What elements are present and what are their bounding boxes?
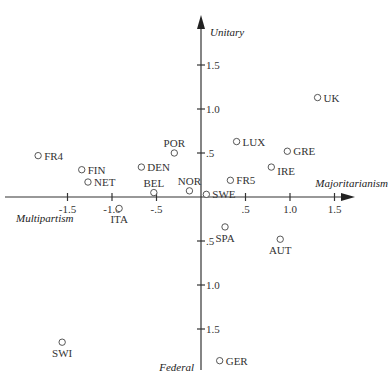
data-point-swe: SWE: [203, 188, 236, 200]
x-axis-arrow-icon: [341, 193, 355, 201]
point-label: POR: [164, 137, 186, 149]
point-label: BEL: [143, 177, 164, 189]
x-axis-label-right: Majoritarianism: [314, 177, 388, 189]
point-marker-icon: [79, 167, 85, 173]
point-marker-icon: [227, 177, 233, 183]
y-tick-label: 1.0: [206, 279, 220, 291]
point-label: IRE: [277, 165, 295, 177]
data-point-fin: FIN: [79, 164, 106, 176]
x-tick-label: 1.0: [283, 203, 297, 215]
data-point-bel: BEL: [143, 177, 164, 196]
point-marker-icon: [171, 150, 177, 156]
point-label: SWE: [212, 188, 236, 200]
point-marker-icon: [186, 188, 192, 194]
scatter-plot: -1.5-1.0-.5.51.01.51.51.0.5.51.01.5 Unit…: [0, 0, 392, 387]
data-point-gre: GRE: [284, 145, 315, 157]
point-marker-icon: [233, 138, 239, 144]
data-point-lux: LUX: [233, 136, 265, 148]
point-marker-icon: [138, 164, 144, 170]
point-label: FR5: [236, 174, 255, 186]
data-point-aut: AUT: [269, 236, 292, 256]
point-label: SPA: [215, 232, 234, 244]
data-point-den: DEN: [138, 161, 170, 173]
data-point-swi: SWI: [52, 339, 73, 359]
point-label: ITA: [110, 213, 128, 225]
data-point-ger: GER: [216, 355, 248, 367]
data-point-fr4: FR4: [35, 150, 64, 162]
data-point-spa: SPA: [215, 224, 234, 244]
point-label: NET: [94, 176, 116, 188]
data-point-nor: NOR: [178, 175, 202, 194]
y-tick-label: .5: [206, 235, 215, 247]
x-axis-label-left: Multipartism: [15, 212, 74, 224]
point-marker-icon: [216, 357, 222, 363]
point-marker-icon: [151, 189, 157, 195]
y-axis-label-bottom: Federal: [158, 361, 194, 373]
y-axis-label-top: Unitary: [210, 26, 244, 38]
point-label: UK: [324, 92, 340, 104]
point-label: LUX: [243, 136, 266, 148]
y-tick-label: 1.5: [206, 59, 220, 71]
x-tick-label: -.5: [151, 203, 163, 215]
y-tick-label: .5: [206, 147, 215, 159]
y-tick-label: 1.0: [206, 103, 220, 115]
point-label: DEN: [147, 161, 170, 173]
data-point-net: NET: [85, 176, 116, 188]
point-label: FIN: [88, 164, 106, 176]
point-label: SWI: [52, 347, 73, 359]
point-label: AUT: [269, 244, 292, 256]
axes: [5, 15, 355, 370]
point-marker-icon: [268, 164, 274, 170]
point-marker-icon: [314, 94, 320, 100]
data-point-fr5: FR5: [227, 174, 256, 186]
point-marker-icon: [116, 205, 122, 211]
point-label: FR4: [44, 150, 63, 162]
point-label: NOR: [178, 175, 202, 187]
x-tick-label: .5: [241, 203, 250, 215]
y-tick-label: 1.5: [206, 323, 220, 335]
point-marker-icon: [59, 339, 65, 345]
point-marker-icon: [85, 179, 91, 185]
point-label: GRE: [293, 145, 315, 157]
point-marker-icon: [277, 236, 283, 242]
data-point-ire: IRE: [268, 164, 295, 177]
data-points: FR4FINNETDENPORBELNORITASWELUXFR5IREGREU…: [35, 92, 340, 367]
point-marker-icon: [284, 148, 290, 154]
point-marker-icon: [35, 152, 41, 158]
point-label: GER: [226, 355, 249, 367]
x-tick-label: 1.5: [328, 203, 342, 215]
data-point-por: POR: [164, 137, 186, 156]
point-marker-icon: [222, 224, 228, 230]
point-marker-icon: [203, 191, 209, 197]
data-point-uk: UK: [314, 92, 339, 104]
y-axis-arrow-icon: [197, 15, 205, 29]
